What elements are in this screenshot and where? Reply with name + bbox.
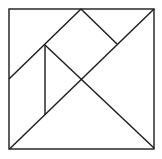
cross-diagonal-line: [45, 45, 154, 148]
upper-right-segment-line: [81, 9, 117, 44]
tangram-diagram: [0, 0, 162, 159]
